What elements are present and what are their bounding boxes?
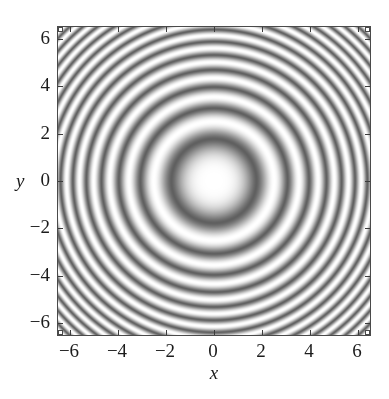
x-tick-label: 2: [256, 340, 266, 362]
y-tick-left: [58, 134, 63, 135]
y-tick-right: [365, 228, 370, 229]
y-tick-left: [58, 276, 63, 277]
x-tick-label: 0: [208, 340, 218, 362]
y-tick-label: 6: [41, 27, 51, 49]
x-tick-top: [214, 27, 215, 32]
x-tick-bottom: [118, 330, 119, 335]
y-tick-right: [365, 323, 370, 324]
x-tick-label: 6: [352, 340, 362, 362]
y-tick-right: [365, 181, 370, 182]
x-tick-bottom: [214, 330, 215, 335]
y-tick-label: 2: [41, 122, 51, 144]
y-tick-right: [365, 39, 370, 40]
x-tick-bottom: [166, 330, 167, 335]
y-tick-right: [365, 86, 370, 87]
x-tick-bottom: [310, 330, 311, 335]
x-tick-top: [118, 27, 119, 32]
y-tick-left: [58, 181, 63, 182]
y-tick-right: [365, 134, 370, 135]
density-plot-canvas: [58, 27, 370, 335]
y-tick-left: [58, 86, 63, 87]
figure-container: −6−4−20246−6−4−20246 x y: [0, 0, 389, 399]
y-tick-label: 4: [41, 74, 51, 96]
corner-nub-top-right: [365, 27, 370, 32]
x-tick-top: [166, 27, 167, 32]
x-tick-top: [358, 27, 359, 32]
x-axis-label: x: [210, 362, 218, 384]
y-tick-left: [58, 39, 63, 40]
x-tick-bottom: [358, 330, 359, 335]
y-tick-label: 0: [41, 169, 51, 191]
x-tick-bottom: [70, 330, 71, 335]
y-axis-label: y: [16, 170, 24, 192]
y-tick-label: −2: [30, 216, 50, 238]
x-tick-top: [310, 27, 311, 32]
x-tick-bottom: [262, 330, 263, 335]
x-tick-label: 4: [304, 340, 314, 362]
y-tick-left: [58, 228, 63, 229]
y-tick-right: [365, 276, 370, 277]
corner-nub-top-left: [58, 27, 63, 32]
x-tick-label: −4: [107, 340, 127, 362]
corner-nub-bottom-right: [365, 330, 370, 335]
corner-nub-bottom-left: [58, 330, 63, 335]
x-tick-top: [262, 27, 263, 32]
x-tick-top: [70, 27, 71, 32]
x-tick-label: −2: [155, 340, 175, 362]
plot-area: [57, 26, 371, 336]
y-tick-label: −6: [30, 311, 50, 333]
y-tick-left: [58, 323, 63, 324]
y-tick-label: −4: [30, 264, 50, 286]
x-tick-label: −6: [59, 340, 79, 362]
